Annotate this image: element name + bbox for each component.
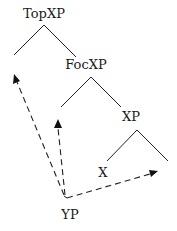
edge-focxp-left: [61, 77, 91, 107]
tree-edges: [14, 25, 168, 161]
arrowhead-icon: [54, 119, 62, 128]
arrowhead-icon: [13, 74, 20, 84]
arrow-yp-to-focxp: [58, 128, 65, 195]
syntax-tree-diagram: TopXP FocXP XP X YP: [0, 0, 177, 231]
arrowhead-icon: [149, 170, 158, 177]
node-x: X: [98, 165, 108, 180]
edge-xp-right: [137, 130, 168, 161]
node-yp: YP: [60, 207, 79, 222]
node-focxp: FocXP: [65, 57, 107, 72]
arrow-yp-to-topxp: [17, 82, 64, 195]
arrow-origin-corner: [64, 196, 67, 198]
node-topxp: TopXP: [23, 6, 65, 21]
edge-focxp-right: [91, 77, 121, 107]
arrow-yp-to-xp: [67, 174, 150, 198]
edge-xp-left: [107, 130, 137, 161]
movement-arrows: [13, 74, 158, 198]
node-xp: XP: [122, 109, 140, 124]
edge-topxp-left: [14, 25, 44, 55]
edge-topxp-right: [44, 25, 76, 57]
